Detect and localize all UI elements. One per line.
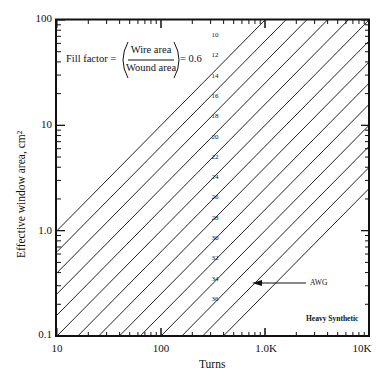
gauge-line-24: [99, 62, 369, 336]
gauge-line-18: [57, 20, 348, 315]
gauge-line-28: [140, 104, 369, 336]
formula-right: = 0.6: [180, 53, 202, 64]
awg-arrow: [252, 280, 306, 286]
gauge-label-12: 12: [208, 51, 222, 59]
gauge-label-28: 28: [208, 214, 222, 222]
gauge-label-16: 16: [208, 92, 222, 100]
gauge-label-26: 26: [208, 193, 222, 201]
y-tick-10: 10: [12, 118, 52, 130]
gauge-label-20: 20: [208, 133, 222, 141]
gauge-label-36: 36: [208, 295, 222, 303]
y-tick-100: 100: [12, 12, 52, 24]
gauge-line-26: [119, 83, 369, 336]
gauge-line-22: [78, 41, 369, 336]
gauge-label-34: 34: [208, 275, 222, 283]
x-tick-10: 10: [37, 342, 77, 354]
gauge-label-24: 24: [208, 173, 222, 181]
formula-denominator: Wound area: [124, 62, 178, 73]
x-axis-title: Turns: [199, 358, 225, 370]
y-tick-0-1: 0.1: [12, 328, 52, 340]
gauge-label-32: 32: [208, 254, 222, 262]
formula-numerator: Wire area: [130, 44, 172, 55]
gauge-label-22: 22: [208, 153, 222, 161]
awg-label: AWG: [310, 278, 327, 287]
material-label: Heavy Synthetic: [306, 314, 358, 323]
gauge-label-18: 18: [208, 112, 222, 120]
gauge-label-10: 10: [208, 31, 222, 39]
formula-left: Fill factor =: [66, 53, 116, 64]
gauge-label-30: 30: [208, 234, 222, 242]
gauge-line-34: [203, 167, 369, 336]
gauge-label-14: 14: [208, 72, 222, 80]
x-tick-1k: 1.0K: [246, 342, 286, 354]
y-axis-title: Effective window area, cm²: [15, 131, 27, 258]
x-tick-10k: 10K: [342, 342, 382, 354]
x-tick-100: 100: [141, 342, 181, 354]
